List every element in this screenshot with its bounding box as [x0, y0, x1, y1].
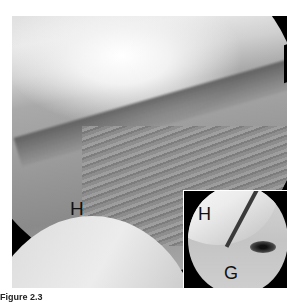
inset-glenoid-label: G: [224, 263, 238, 284]
inset-humeral-head-label: H: [198, 204, 211, 225]
humeral-head-label: H: [70, 198, 84, 220]
inset-lesion: [250, 241, 276, 253]
inset-arthroscopic-view: H G: [183, 190, 287, 288]
figure-caption: Figure 2.3: [0, 292, 43, 302]
arthroscopic-figure: H H G: [12, 16, 287, 288]
scope-notch: [284, 37, 287, 84]
